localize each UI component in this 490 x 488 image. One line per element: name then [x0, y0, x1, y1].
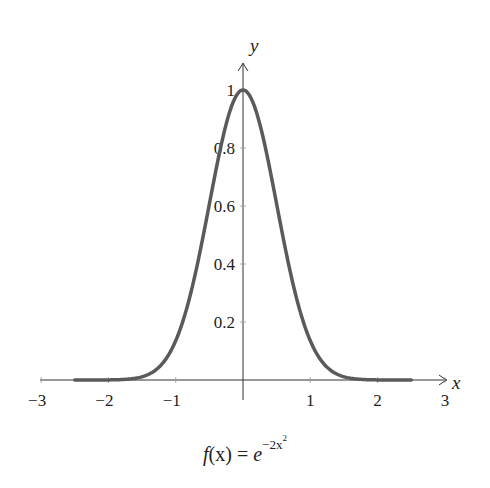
y-tick-label: 0.4 [214, 255, 236, 274]
y-axis-label: y [248, 35, 259, 56]
x-tick-label: 1 [306, 391, 315, 410]
tick-labels: −3−2−11230.20.40.60.81 [28, 81, 449, 410]
y-tick-label: 0.6 [214, 197, 235, 216]
x-tick-label: 2 [373, 391, 382, 410]
function-caption: f(x) = e−2x2 [0, 440, 490, 466]
y-tick-label: 0.8 [214, 139, 235, 158]
gaussian-chart: −3−2−11230.20.40.60.81 x y [0, 0, 490, 488]
y-tick-label: 0.2 [214, 313, 235, 332]
x-tick-label: −2 [95, 391, 113, 410]
caption-base: e [253, 443, 262, 465]
caption-arg: (x) [209, 443, 232, 465]
x-axis-label: x [451, 372, 461, 393]
caption-eq: = [232, 443, 253, 465]
x-tick-label: −3 [28, 391, 46, 410]
caption-exponent: −2x2 [262, 437, 287, 452]
x-tick-label: −1 [163, 391, 181, 410]
x-tick-label: 3 [441, 391, 450, 410]
axes [40, 63, 447, 400]
